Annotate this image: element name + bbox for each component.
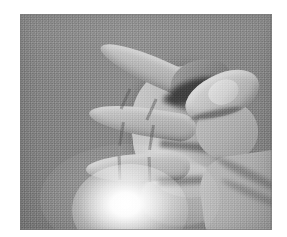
hand-gesture-photograph <box>20 14 272 230</box>
hand <box>20 14 272 230</box>
page-canvas <box>0 0 287 237</box>
